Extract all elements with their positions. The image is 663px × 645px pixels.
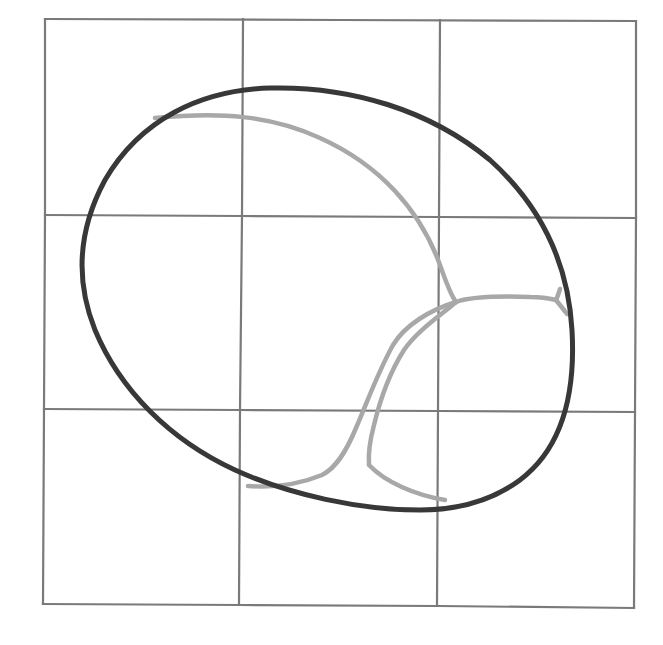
diagram-background <box>0 0 663 645</box>
grid-diagram <box>0 0 663 645</box>
